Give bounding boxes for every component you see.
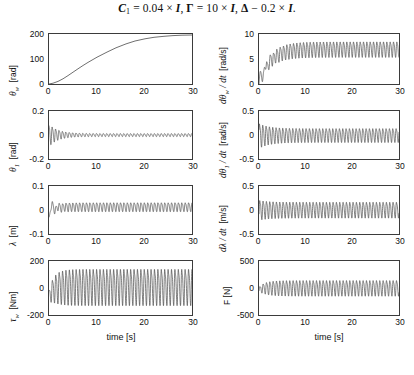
xtick-lambda-20: 20	[134, 236, 154, 246]
xtick-dtheta-1-0: 0	[248, 161, 268, 171]
xtick-F-20: 20	[342, 317, 362, 327]
xtick-tau-w-30: 30	[183, 317, 203, 327]
xlabel-force-F: time [s]	[279, 332, 379, 342]
title-c-symbol: C	[118, 2, 126, 14]
xtick-theta-w-20: 20	[134, 86, 154, 96]
ytick-dtheta-w-10: 10	[228, 29, 254, 39]
xtick-dtheta-1-30: 30	[390, 161, 410, 171]
plot-area-tau-w	[48, 260, 193, 316]
ytick-theta-1-pos: 0.2	[12, 106, 44, 116]
xtick-dlambda-10: 10	[295, 236, 315, 246]
trace-tau-w	[49, 261, 192, 315]
xtick-F-0: 0	[248, 317, 268, 327]
xtick-theta-w-30: 30	[183, 86, 203, 96]
title-eq3: − 0.2 ×	[248, 2, 288, 14]
plot-area-force-F	[258, 260, 400, 316]
title-gamma-symbol: Γ	[186, 2, 193, 14]
xtick-dtheta-w-0: 0	[248, 86, 268, 96]
ytick-theta-1-zero: 0	[12, 130, 44, 140]
ytick-dlambda-zero: 0	[222, 205, 254, 215]
xtick-tau-w-0: 0	[38, 317, 58, 327]
ytick-tau-w-pos: 200	[12, 256, 44, 266]
xtick-tau-w-20: 20	[134, 317, 154, 327]
trace-theta-w	[49, 34, 192, 84]
plot-area-lambda	[48, 185, 193, 235]
xtick-dlambda-30: 30	[390, 236, 410, 246]
ytick-F-zero: 0	[222, 283, 254, 293]
ytick-dlambda-pos: 0.5	[222, 181, 254, 191]
xtick-theta-w-10: 10	[86, 86, 106, 96]
xtick-F-30: 30	[390, 317, 410, 327]
xtick-theta-w-0: 0	[38, 86, 58, 96]
figure-title: C1 = 0.04 × I, Γ = 10 × I, Δ − 0.2 × I.	[0, 2, 414, 14]
plot-area-dtheta-w-dt	[258, 33, 400, 85]
xtick-lambda-10: 10	[86, 236, 106, 246]
ytick-theta-w-200: 200	[18, 29, 44, 39]
xlabel-tau-w: time [s]	[71, 332, 171, 342]
plot-area-theta-1	[48, 110, 193, 160]
ytick-dtheta-1-pos: 0.5	[222, 106, 254, 116]
xtick-theta-1-10: 10	[86, 161, 106, 171]
plot-area-dtheta-1-dt	[258, 110, 400, 160]
xtick-dtheta-1-20: 20	[342, 161, 362, 171]
xtick-dtheta-1-10: 10	[295, 161, 315, 171]
xtick-lambda-0: 0	[38, 236, 58, 246]
ytick-theta-w-100: 100	[18, 54, 44, 64]
xtick-dlambda-0: 0	[248, 236, 268, 246]
ytick-lambda-zero: 0	[12, 205, 44, 215]
plot-area-dlambda-dt	[258, 185, 400, 235]
title-eq2: = 10 ×	[194, 2, 231, 14]
trace-dtheta-w-dt	[259, 34, 399, 84]
trace-dlambda-dt	[259, 186, 399, 234]
ytick-F-pos: 500	[222, 256, 254, 266]
xtick-theta-1-20: 20	[134, 161, 154, 171]
xtick-theta-1-0: 0	[38, 161, 58, 171]
title-c-subscript: 1	[126, 7, 130, 16]
ytick-dtheta-w-5: 5	[228, 54, 254, 64]
xtick-tau-w-10: 10	[86, 317, 106, 327]
ytick-lambda-pos: 0.1	[12, 181, 44, 191]
trace-theta-1	[49, 111, 192, 159]
ytick-tau-w-zero: 0	[12, 283, 44, 293]
xtick-dtheta-w-30: 30	[390, 86, 410, 96]
ytick-dtheta-1-zero: 0	[222, 130, 254, 140]
plot-area-theta-w	[48, 33, 193, 85]
trace-lambda	[49, 186, 192, 234]
xtick-theta-1-30: 30	[183, 161, 203, 171]
figure-root: C1 = 0.04 × I, Γ = 10 × I, Δ − 0.2 × I. …	[0, 0, 414, 375]
xtick-lambda-30: 30	[183, 236, 203, 246]
xtick-dlambda-20: 20	[342, 236, 362, 246]
trace-force-F	[259, 261, 399, 315]
xtick-dtheta-w-10: 10	[295, 86, 315, 96]
xtick-F-10: 10	[295, 317, 315, 327]
trace-dtheta-1-dt	[259, 111, 399, 159]
title-eq1: = 0.04 ×	[130, 2, 176, 14]
xtick-dtheta-w-20: 20	[342, 86, 362, 96]
title-period: .	[293, 2, 296, 14]
